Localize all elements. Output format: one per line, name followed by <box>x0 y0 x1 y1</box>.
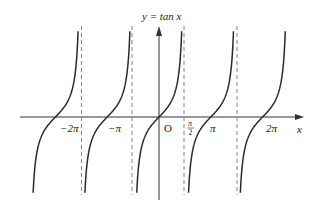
tick-label-half-pi: π 2 <box>188 119 195 137</box>
tangent-graph: y = tan x x O −2π −π π 2π π 2 <box>0 0 321 210</box>
x-axis-label: x <box>296 123 302 135</box>
half-pi-denominator: 2 <box>189 128 193 137</box>
x-axis-arrow-icon <box>295 114 304 120</box>
tan-branch <box>240 31 285 192</box>
tan-branch <box>33 31 78 192</box>
y-axis-arrow-icon <box>156 26 162 36</box>
tick-label-pi: π <box>210 122 216 134</box>
half-pi-numerator: π <box>188 119 193 128</box>
tan-branch <box>189 31 234 192</box>
tick-label-neg-2pi: −2π <box>60 122 79 134</box>
graph-title: y = tan x <box>141 10 182 22</box>
tan-branch <box>85 31 130 192</box>
origin-label: O <box>164 122 172 134</box>
tick-label-2pi: 2π <box>266 122 278 134</box>
tick-label-neg-pi: −π <box>108 122 121 134</box>
